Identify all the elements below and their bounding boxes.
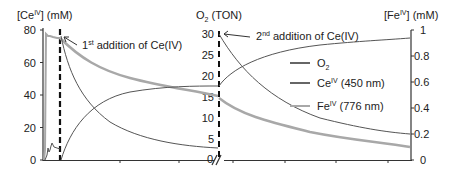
tick-label: 60 <box>24 57 36 69</box>
middle-axis-title: O2 (TON) <box>196 9 242 23</box>
legend-label-fe: FeIV (776 nm) <box>317 100 384 112</box>
right-axis-ticks: 1 0.8 0.6 0.4 0.2 0 <box>411 24 429 166</box>
middle-axis-ticks: 30 25 20 15 10 5 0 <box>202 28 214 165</box>
tick-label: 0 <box>30 154 36 166</box>
tick-label: 0.4 <box>414 102 429 114</box>
tick-label: 10 <box>202 112 214 124</box>
tick-label: 0 <box>420 154 426 166</box>
tick-label: 0.2 <box>414 128 429 140</box>
fe-series-initial <box>44 34 60 160</box>
tick-label: 40 <box>24 89 36 101</box>
left-axis-ticks: 80 60 40 20 0 <box>24 24 43 166</box>
left-axis-title: [CeIV] (mM) <box>17 9 73 21</box>
tick-label: 0.6 <box>414 76 429 88</box>
legend-label-o2: O2 <box>317 57 330 71</box>
tick-label: 80 <box>24 24 36 36</box>
tick-label: 5 <box>208 133 214 145</box>
tick-label: 30 <box>202 28 214 40</box>
tick-label: 20 <box>24 122 36 134</box>
legend: O2 CeIV (450 nm) FeIV (776 nm) <box>290 57 385 112</box>
tick-label: 25 <box>202 49 214 61</box>
annotation-first-addition: 1st addition of Ce(IV) <box>64 37 182 51</box>
svg-text:2nd addition of Ce(IV): 2nd addition of Ce(IV) <box>256 30 359 42</box>
o2-series-seg1 <box>61 86 218 160</box>
tick-label: 0.8 <box>414 50 429 62</box>
right-axis-title: [FeIV] (mM) <box>384 9 438 21</box>
tick-label: 20 <box>202 70 214 82</box>
annotation-second-addition: 2nd addition of Ce(IV) <box>224 30 359 42</box>
legend-label-ce: CeIV (450 nm) <box>317 77 385 89</box>
tick-label: 0 <box>207 153 213 165</box>
chart: 80 60 40 20 0 [CeIV] (mM) 1 0.8 0.6 0.4 … <box>0 0 454 177</box>
ce-series-initial <box>45 143 60 160</box>
tick-label: 1 <box>420 24 426 36</box>
svg-text:1st addition of Ce(IV): 1st addition of Ce(IV) <box>82 39 182 51</box>
